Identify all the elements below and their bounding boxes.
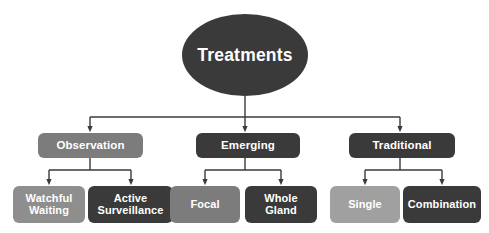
node-watchful-waiting[interactable]: Watchful Waiting bbox=[13, 186, 85, 223]
node-active-surveillance-label: Active Surveillance bbox=[94, 193, 166, 216]
node-traditional[interactable]: Traditional bbox=[349, 133, 455, 158]
node-combination-label: Combination bbox=[405, 199, 479, 211]
node-single[interactable]: Single bbox=[330, 186, 400, 223]
node-emerging-label: Emerging bbox=[218, 139, 278, 151]
node-traditional-label: Traditional bbox=[369, 139, 434, 151]
node-treatments-label: Treatments bbox=[194, 46, 295, 65]
node-whole-gland[interactable]: Whole Gland bbox=[245, 186, 317, 223]
node-combination[interactable]: Combination bbox=[403, 186, 481, 223]
node-whole-gland-label: Whole Gland bbox=[261, 193, 301, 216]
treatments-hierarchy-diagram: Treatments Observation Emerging Traditio… bbox=[0, 0, 489, 233]
node-watchful-waiting-label: Watchful Waiting bbox=[23, 193, 76, 216]
node-treatments[interactable]: Treatments bbox=[182, 14, 308, 96]
node-focal[interactable]: Focal bbox=[170, 186, 240, 223]
node-observation-label: Observation bbox=[53, 139, 127, 151]
node-observation[interactable]: Observation bbox=[38, 133, 143, 158]
node-single-label: Single bbox=[345, 199, 385, 211]
node-active-surveillance[interactable]: Active Surveillance bbox=[88, 186, 173, 223]
node-focal-label: Focal bbox=[187, 199, 222, 211]
node-emerging[interactable]: Emerging bbox=[196, 133, 300, 158]
